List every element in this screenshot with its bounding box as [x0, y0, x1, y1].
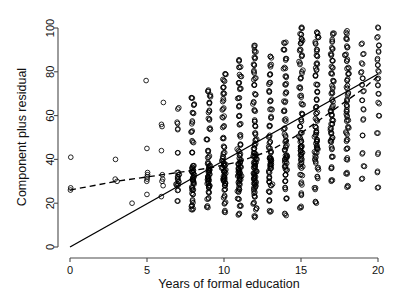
data-point [68, 155, 73, 160]
x-tick-label: 0 [67, 264, 73, 276]
scatter-points-layer [68, 25, 382, 220]
y-tick-label: 80 [44, 66, 56, 78]
data-point [161, 183, 166, 188]
data-point [268, 54, 273, 59]
data-point [315, 110, 320, 115]
component-plus-residual-plot: 02040608010005101520 Years of formal edu… [0, 0, 410, 307]
data-point [360, 62, 365, 67]
y-tick-label: 60 [44, 109, 56, 121]
data-point [130, 201, 135, 206]
data-point [345, 28, 350, 33]
data-point [297, 59, 302, 64]
y-tick-label: 100 [44, 19, 56, 37]
data-point [360, 133, 365, 138]
x-tick-label: 20 [372, 264, 384, 276]
chart-canvas: 02040608010005101520 Years of formal edu… [0, 0, 410, 307]
x-tick-label: 5 [144, 264, 150, 276]
data-point [314, 30, 319, 35]
data-point [282, 132, 287, 137]
data-point [159, 148, 164, 153]
data-point [144, 78, 149, 83]
y-tick-label: 20 [44, 197, 56, 209]
data-point [145, 146, 150, 151]
x-tick-label: 15 [295, 264, 307, 276]
x-tick-label: 10 [218, 264, 230, 276]
data-point [269, 56, 274, 61]
data-point [145, 192, 150, 197]
y-tick-label: 0 [44, 244, 56, 250]
x-axis-title: Years of formal education [158, 277, 299, 291]
data-point [161, 100, 166, 105]
data-point [254, 206, 259, 211]
data-point [176, 105, 181, 110]
y-tick-label: 40 [44, 153, 56, 165]
data-point [113, 157, 118, 162]
y-axis-title: Component plus residual [15, 68, 29, 206]
data-point [377, 101, 382, 106]
